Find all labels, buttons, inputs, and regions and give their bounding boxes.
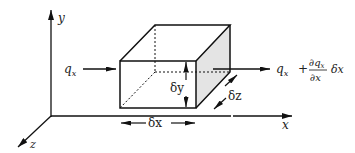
dimension-dy: δy	[170, 62, 186, 107]
front-face	[120, 61, 196, 108]
right-face-shaded	[196, 25, 230, 108]
dz-arrow-front	[214, 98, 226, 109]
outflow-denominator: ∂x	[310, 72, 321, 83]
dimension-dx: δx	[121, 116, 195, 130]
outflow-plus: +	[298, 62, 308, 76]
z-axis-label: z	[29, 138, 36, 151]
dy-label: δy	[170, 81, 184, 95]
control-volume-diagram: y x z qx qx + ∂qx ∂x δx	[0, 0, 355, 153]
hidden-edge-diagonal	[120, 72, 155, 108]
outflow-numerator: ∂qx	[309, 57, 325, 70]
dz-arrow-back	[225, 75, 237, 86]
inflow-sub: x	[72, 69, 77, 78]
outflow-multiplier: δx	[331, 63, 345, 76]
dz-label: δz	[228, 89, 242, 103]
dx-label: δx	[148, 116, 162, 130]
x-axis-label: x	[282, 118, 289, 132]
inflow-label: qx	[64, 62, 77, 78]
control-volume-box	[120, 25, 230, 108]
outflow-term1: qx	[276, 62, 289, 78]
y-axis-label: y	[57, 11, 65, 25]
inflow-flux: qx	[64, 62, 116, 78]
